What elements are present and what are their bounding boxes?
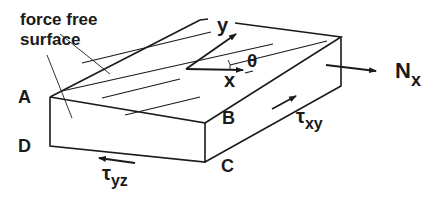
corner-a-label: A [18, 87, 31, 107]
corner-b-label: B [222, 108, 235, 128]
corner-c-label: C [221, 156, 234, 176]
tau-xy-label: τxy [296, 105, 323, 132]
box-outline [50, 19, 341, 162]
surface-hatching [62, 32, 327, 115]
coordinate-axes [186, 34, 243, 70]
x-axis-label: x [224, 69, 235, 91]
y-axis-label: y [217, 14, 229, 36]
surface-label: surface [20, 30, 80, 49]
theta-label: θ [247, 50, 257, 71]
laminate-element-diagram: force free surface A D B C y x θ Nx τxy … [0, 0, 438, 213]
corner-d-label: D [18, 136, 31, 156]
nx-label: Nx [395, 58, 421, 90]
force-free-label: force free [20, 10, 97, 29]
tau-yz-label: τyz [102, 162, 128, 189]
normal-force-arrow [326, 65, 376, 71]
shear-xy-arrow [272, 96, 296, 109]
